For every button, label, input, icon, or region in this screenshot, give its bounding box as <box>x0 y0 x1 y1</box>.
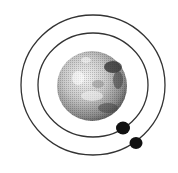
outer-moon <box>130 137 143 149</box>
inner-moon <box>116 122 130 135</box>
orbit-diagram: Planet with two moons on concentric orbi… <box>0 0 178 173</box>
diagram-canvas <box>0 0 178 173</box>
planet <box>57 51 127 121</box>
